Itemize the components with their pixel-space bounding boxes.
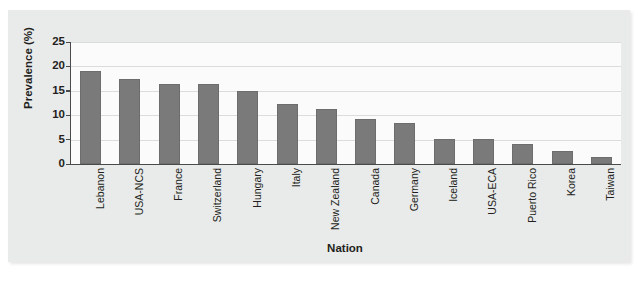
bar-slot <box>425 42 464 164</box>
y-axis-tick-label: 10 <box>35 109 65 121</box>
bar <box>237 91 258 164</box>
x-axis-label-slot: New Zealand <box>306 166 345 236</box>
x-axis-tick-label: Iceland <box>447 168 459 202</box>
x-axis-label-slot: Italy <box>266 166 305 236</box>
y-axis-tick-labels: 0510152025 <box>32 42 65 164</box>
bar-series <box>71 42 621 164</box>
x-axis-tick-labels: LebanonUSA-NCSFranceSwitzerlandHungaryIt… <box>70 166 620 236</box>
chart-panel: Prevalence (%) 0510152025 LebanonUSA-NCS… <box>8 10 630 262</box>
bar-slot <box>228 42 267 164</box>
bar <box>552 151 573 164</box>
x-axis-tick-label: Italy <box>290 168 302 187</box>
x-axis-tick-label: Korea <box>565 168 577 196</box>
x-axis-tick-label: USA-ECA <box>486 168 498 215</box>
y-axis-tick <box>66 115 71 116</box>
bar-slot <box>542 42 581 164</box>
x-axis-tick-label: Hungary <box>251 168 263 208</box>
x-axis-label-slot: France <box>149 166 188 236</box>
x-axis-label-slot: Iceland <box>424 166 463 236</box>
y-axis-tick-label: 15 <box>35 85 65 97</box>
x-axis-tick-label: Canada <box>369 168 381 205</box>
x-axis-tick-label: New Zealand <box>329 168 341 230</box>
x-axis-title: Nation <box>70 242 620 254</box>
x-axis-label-slot: USA-ECA <box>463 166 502 236</box>
bar-slot <box>150 42 189 164</box>
x-axis-label-slot: Germany <box>384 166 423 236</box>
y-axis-tick-label: 5 <box>35 134 65 146</box>
x-axis-tick-label: Germany <box>408 168 420 211</box>
x-axis-tick-label: Puerto Rico <box>526 168 538 223</box>
x-axis-tick-label: Taiwan <box>604 168 616 201</box>
x-axis-tick-label: USA-NCS <box>133 168 145 215</box>
y-axis-tick <box>66 139 71 140</box>
bar-slot <box>110 42 149 164</box>
bar <box>591 157 612 164</box>
bar <box>80 71 101 164</box>
y-axis-tick-label: 25 <box>35 36 65 48</box>
x-axis-tick-label: Switzerland <box>211 168 223 222</box>
bar-slot <box>582 42 621 164</box>
bar-slot <box>267 42 306 164</box>
bar <box>394 123 415 164</box>
x-axis-label-slot: Hungary <box>227 166 266 236</box>
y-axis-tick-label: 20 <box>35 60 65 72</box>
bar-slot <box>503 42 542 164</box>
bar <box>198 84 219 164</box>
y-axis-tick-label: 0 <box>35 158 65 170</box>
x-axis-label-slot: Taiwan <box>581 166 620 236</box>
y-axis-tick <box>66 164 71 165</box>
bar-slot <box>385 42 424 164</box>
bar <box>277 104 298 164</box>
x-axis-label-slot: Switzerland <box>188 166 227 236</box>
figure-container: Prevalence (%) 0510152025 LebanonUSA-NCS… <box>0 0 638 285</box>
x-axis-tick-label: Lebanon <box>94 168 106 209</box>
bar <box>355 119 376 164</box>
bar <box>473 139 494 164</box>
bar <box>119 79 140 164</box>
bar-slot <box>71 42 110 164</box>
bar-slot <box>346 42 385 164</box>
bar-slot <box>464 42 503 164</box>
y-axis-tick <box>66 42 71 43</box>
y-axis-tick <box>66 90 71 91</box>
bar <box>434 139 455 164</box>
x-axis-label-slot: Lebanon <box>70 166 109 236</box>
bar-slot <box>307 42 346 164</box>
x-axis-label-slot: Canada <box>345 166 384 236</box>
x-axis-label-slot: Puerto Rico <box>502 166 541 236</box>
x-axis-tick-label: France <box>172 168 184 201</box>
bar <box>159 84 180 164</box>
bar <box>316 109 337 164</box>
plot-area <box>70 42 621 165</box>
x-axis-label-slot: USA-NCS <box>109 166 148 236</box>
bar-slot <box>189 42 228 164</box>
y-axis-tick <box>66 66 71 67</box>
bar <box>512 144 533 164</box>
x-axis-label-slot: Korea <box>541 166 580 236</box>
